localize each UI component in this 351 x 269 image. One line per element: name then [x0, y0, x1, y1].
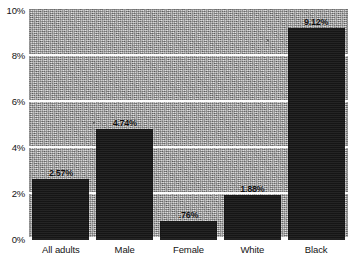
x-axis-tick-label-all-adults: All adults — [29, 245, 93, 263]
x-axis-tick-label-white: White — [220, 245, 284, 263]
y-axis-tick-label: 2% — [12, 189, 25, 199]
y-axis-tick-label: 10% — [7, 6, 25, 16]
bar-slot-all-adults: 2.57% — [29, 9, 93, 239]
bar-value-label: 1.88% — [240, 184, 264, 194]
bar-value-label: 4.74% — [113, 118, 137, 128]
bar-white: 1.88% — [225, 196, 280, 239]
y-axis-tick-label: 6% — [12, 97, 25, 107]
bar-value-label: 2.57% — [49, 168, 73, 178]
x-axis: All adults Male Female White Black — [29, 245, 348, 263]
bar-value-label: .76% — [179, 210, 198, 220]
x-axis-tick-label-black: Black — [284, 245, 348, 263]
bar-chart: 10% 8% 6% 4% 2% 0% 2.57% 4.74% — [0, 0, 351, 269]
x-axis-tick-label-female: Female — [157, 245, 221, 263]
bar-value-label: 9.12% — [304, 17, 328, 27]
bar-black: 9.12% — [289, 29, 344, 239]
bar-slot-white: 1.88% — [220, 9, 284, 239]
bar-series: 2.57% 4.74% .76% 1.88% 9.12% — [29, 9, 348, 239]
bar-slot-female: .76% — [157, 9, 221, 239]
bar-male: 4.74% — [97, 130, 152, 239]
plot-area: 2.57% 4.74% .76% 1.88% 9.12% — [29, 9, 348, 239]
x-axis-tick-label-male: Male — [93, 245, 157, 263]
bar-all-adults: 2.57% — [33, 180, 88, 239]
bar-female: .76% — [161, 222, 216, 239]
y-axis-tick-label: 4% — [12, 143, 25, 153]
y-axis: 10% 8% 6% 4% 2% 0% — [0, 0, 28, 269]
y-axis-tick-label: 8% — [12, 51, 25, 61]
bar-slot-black: 9.12% — [284, 9, 348, 239]
bar-slot-male: 4.74% — [93, 9, 157, 239]
y-axis-tick-label: 0% — [12, 235, 25, 245]
